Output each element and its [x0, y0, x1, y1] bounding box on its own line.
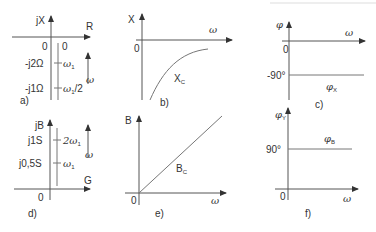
- y-axis-label: jB: [34, 120, 44, 131]
- tick-value-1: -j2Ω: [25, 58, 44, 69]
- origin-label: 0: [283, 44, 289, 55]
- y-axis-label: X: [128, 14, 135, 25]
- bc-line: [139, 116, 222, 193]
- x-axis-label: R: [86, 21, 93, 32]
- y-axis-label: φ: [276, 19, 283, 30]
- panel-label-c: c): [315, 99, 323, 110]
- tick-value-1: j1S: [27, 135, 43, 146]
- x-axis-label: G: [84, 175, 92, 186]
- panel-c: φ ω 0 -90° φX c): [267, 19, 365, 110]
- panel-label-b: b): [160, 97, 169, 108]
- panel-f: φY ω 0 90° φB f): [266, 108, 358, 219]
- panel-label-f: f): [305, 208, 311, 219]
- x-axis-label: ω: [211, 195, 219, 206]
- panel-label-d: d): [28, 208, 37, 219]
- curve-label: φB: [324, 133, 335, 145]
- panel-label-e: e): [155, 208, 164, 219]
- level-label: 90°: [266, 144, 281, 155]
- origin-label: 0: [42, 41, 48, 52]
- origin-label: 0: [38, 192, 44, 203]
- figure-canvas: jX R 0 0 -j2Ω -j1Ω ω1 ω1/2 ω a) X ω 0 XC…: [0, 0, 376, 232]
- curve-label: φX: [326, 81, 337, 93]
- curve-label: XC: [174, 73, 186, 85]
- panel-label-a: a): [20, 95, 29, 106]
- panel-d: jB G 0 j1S j0,5S 2ω1 ω1 ω d): [14, 120, 93, 219]
- x-axis-label: ω: [343, 193, 351, 204]
- origin-label: 0: [131, 195, 137, 206]
- omega-arrow-label: ω: [85, 149, 93, 160]
- tick-value-2: j0,5S: [18, 158, 42, 169]
- x-axis-label: ω: [209, 24, 217, 35]
- x-axis-label: ω: [345, 27, 353, 38]
- col-zero-label: 0: [62, 41, 68, 52]
- tick-freq-2: ω1: [63, 158, 75, 170]
- level-label: -90°: [267, 70, 285, 81]
- tick-value-2: -j1Ω: [25, 83, 44, 94]
- y-axis-label: φY: [275, 109, 286, 121]
- origin-label: 0: [134, 43, 140, 54]
- tick-freq-2: ω1/2: [63, 83, 83, 95]
- y-axis-label: jX: [35, 15, 45, 26]
- panel-a: jX R 0 0 -j2Ω -j1Ω ω1 ω1/2 ω a): [12, 15, 94, 106]
- panel-e: B ω 0 BC e): [125, 115, 226, 219]
- omega-arrow-label: ω: [86, 74, 94, 85]
- curve-label: BC: [176, 163, 188, 175]
- y-axis-label: B: [125, 115, 132, 126]
- tick-freq-1: ω1: [63, 58, 75, 70]
- origin-label: 0: [280, 191, 286, 202]
- tick-freq-1: 2ω1: [62, 135, 82, 147]
- panel-b: X ω 0 XC b): [128, 14, 232, 108]
